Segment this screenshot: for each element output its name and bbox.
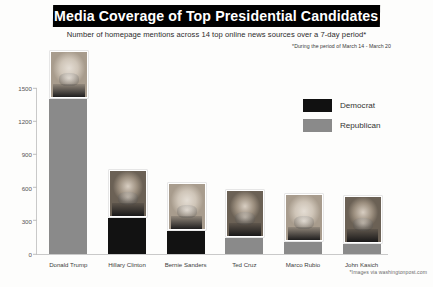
- bar-john-kasich[interactable]: [343, 244, 381, 254]
- photo-hillary-clinton: [109, 170, 147, 217]
- legend-item-republican: Republican: [303, 119, 381, 132]
- y-axis-tickmark: [33, 121, 37, 122]
- y-axis-tickmark: [33, 87, 37, 88]
- y-axis-tickmark: [33, 253, 37, 254]
- x-axis-line: [36, 254, 388, 255]
- y-axis-tickmark: [33, 220, 37, 221]
- photo-bernie-sanders: [168, 183, 206, 230]
- y-axis-tickmark: [33, 187, 37, 188]
- x-label-hillary-clinton: Hillary Clinton: [98, 261, 157, 268]
- chart-legend: Democrat Republican: [303, 99, 381, 139]
- bar-marco-rubio[interactable]: [284, 242, 322, 254]
- face-image: [345, 197, 381, 242]
- y-axis-tickmark: [33, 154, 37, 155]
- chart-container: Media Coverage of Top Presidential Candi…: [0, 0, 433, 287]
- legend-label-republican: Republican: [340, 121, 381, 130]
- face-image: [286, 195, 322, 240]
- legend-label-democrat: Democrat: [340, 101, 375, 110]
- y-axis-tick-600: 600: [2, 184, 32, 191]
- photo-donald-trump: [50, 51, 88, 98]
- x-label-john-kasich: John Kasich: [332, 261, 391, 268]
- legend-item-democrat: Democrat: [303, 99, 381, 112]
- photo-john-kasich: [344, 196, 382, 243]
- page-title: Media Coverage of Top Presidential Candi…: [54, 8, 378, 24]
- face-image: [169, 184, 205, 229]
- face-image: [227, 191, 263, 236]
- y-axis-line: [36, 88, 37, 254]
- legend-swatch-republican: [303, 119, 332, 132]
- y-axis-tick-1500: 1500: [2, 85, 32, 92]
- bar-donald-trump[interactable]: [49, 99, 87, 254]
- bar-hillary-clinton[interactable]: [108, 218, 146, 254]
- y-axis-tick-1200: 1200: [2, 118, 32, 125]
- bar-bernie-sanders[interactable]: [167, 231, 205, 254]
- face-image: [110, 171, 146, 216]
- bar-ted-cruz[interactable]: [225, 238, 263, 254]
- y-axis-tick-300: 300: [2, 218, 32, 225]
- face-image: [51, 52, 87, 97]
- y-axis-tick-900: 900: [2, 151, 32, 158]
- legend-swatch-democrat: [303, 99, 332, 112]
- chart-subtitle: Number of homepage mentions across 14 to…: [0, 30, 433, 39]
- x-label-donald-trump: Donald Trump: [39, 261, 98, 268]
- photo-ted-cruz: [226, 190, 264, 237]
- chart-title-banner: Media Coverage of Top Presidential Candi…: [53, 5, 380, 27]
- x-label-marco-rubio: Marco Rubio: [274, 261, 333, 268]
- photo-marco-rubio: [285, 194, 323, 241]
- chart-subtitle-footnote: *During the period of March 14 - March 2…: [292, 43, 391, 49]
- x-label-ted-cruz: Ted Cruz: [215, 261, 274, 268]
- image-credit: *Images via washingtonpost.com: [350, 269, 427, 275]
- y-axis-tick-0: 0: [2, 251, 32, 258]
- x-label-bernie-sanders: Bernie Sanders: [156, 261, 215, 268]
